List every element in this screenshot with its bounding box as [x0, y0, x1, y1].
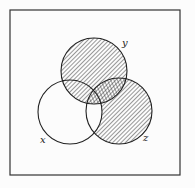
label-x: x — [40, 134, 46, 145]
label-z: z — [142, 132, 149, 143]
label-y: y — [121, 37, 128, 48]
venn-diagram: x y z — [0, 0, 195, 188]
region-z-hatch — [0, 0, 195, 188]
